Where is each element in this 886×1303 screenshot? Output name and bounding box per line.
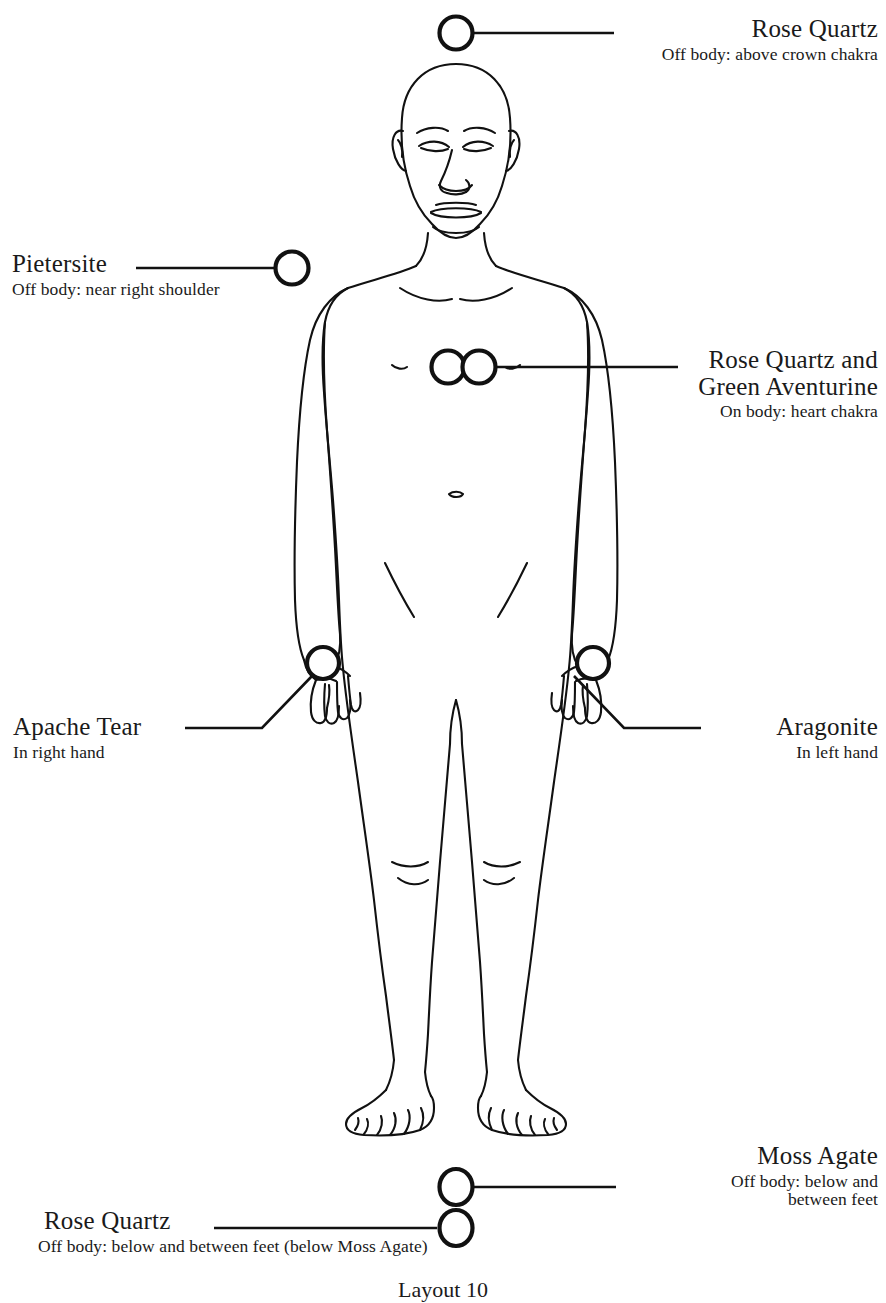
label-crown: Rose Quartz Off body: above crown chakra	[600, 16, 878, 63]
label-crown-placement: Off body: above crown chakra	[600, 45, 878, 64]
label-moss-agate-placement-line1: Off body: below and	[598, 1172, 878, 1191]
label-left-hand-placement: In left hand	[618, 743, 878, 762]
label-rose-quartz-bottom-placement: Off body: below and between feet (below …	[38, 1237, 564, 1256]
crystal-marker-right-hand[interactable]	[307, 647, 339, 679]
crystal-marker-moss-agate[interactable]	[440, 1169, 473, 1205]
label-heart-placement: On body: heart chakra	[612, 402, 878, 421]
human-figure-outline	[295, 64, 618, 1135]
label-heart-title-line2: Green Aventurine	[612, 374, 878, 401]
label-heart: Rose Quartz and Green Aventurine On body…	[612, 347, 878, 421]
label-right-hand-title: Apache Tear	[13, 714, 273, 741]
crystal-marker-left-hand[interactable]	[577, 647, 609, 679]
label-left-hand-title: Aragonite	[618, 714, 878, 741]
label-crown-title: Rose Quartz	[600, 16, 878, 43]
label-right-shoulder-placement: Off body: near right shoulder	[12, 280, 302, 299]
crystal-marker-heart-left[interactable]	[432, 351, 465, 384]
label-right-hand: Apache Tear In right hand	[13, 714, 273, 761]
crystal-markers	[276, 17, 610, 1247]
figure-caption: Layout 10	[0, 1277, 886, 1303]
label-left-hand: Aragonite In left hand	[618, 714, 878, 761]
leader-lines	[136, 33, 701, 1228]
label-rose-quartz-bottom: Rose Quartz Off body: below and between …	[44, 1208, 564, 1255]
label-moss-agate-title: Moss Agate	[598, 1143, 878, 1170]
crystal-marker-heart-right[interactable]	[463, 351, 496, 384]
label-rose-quartz-bottom-title: Rose Quartz	[44, 1208, 564, 1235]
label-moss-agate: Moss Agate Off body: below and between f…	[598, 1143, 878, 1209]
label-moss-agate-placement-line2: between feet	[598, 1190, 878, 1209]
label-right-hand-placement: In right hand	[13, 743, 273, 762]
label-right-shoulder-title: Pietersite	[12, 251, 302, 278]
crystal-marker-crown[interactable]	[440, 17, 473, 50]
label-heart-title-line1: Rose Quartz and	[612, 347, 878, 374]
label-right-shoulder: Pietersite Off body: near right shoulder	[12, 251, 302, 298]
